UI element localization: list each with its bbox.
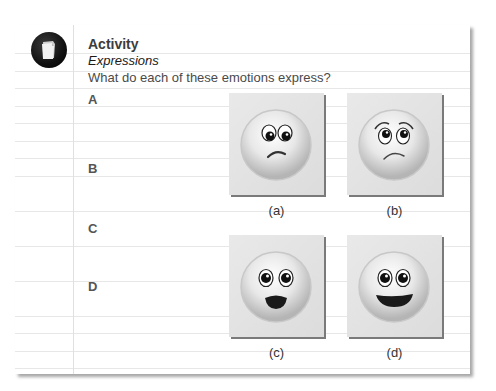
caption-d: (d)	[347, 345, 442, 360]
caption-b: (b)	[347, 203, 442, 218]
option-c-label: C	[88, 221, 97, 236]
emoticon-panel-b	[347, 93, 442, 195]
option-a-label: A	[88, 92, 97, 107]
worried-face-icon	[347, 93, 442, 195]
option-d-label: D	[88, 279, 97, 294]
option-b-label: B	[88, 161, 97, 176]
activity-title: Activity	[88, 36, 139, 52]
caption-a: (a)	[229, 203, 324, 218]
emoticon-panel-d	[347, 235, 442, 337]
activity-question: What do each of these emotions express?	[88, 70, 331, 85]
activity-card: Activity Expressions What do each of the…	[15, 25, 470, 374]
sad-face-icon	[229, 93, 324, 195]
caption-c: (c)	[229, 345, 324, 360]
document-stack-icon	[31, 32, 67, 68]
happy-face-icon	[347, 235, 442, 337]
emoticon-panel-a	[229, 93, 324, 195]
margin-divider	[73, 25, 74, 374]
emoticon-panel-c	[229, 235, 324, 337]
surprised-face-icon	[229, 235, 324, 337]
activity-subtitle: Expressions	[88, 53, 159, 68]
